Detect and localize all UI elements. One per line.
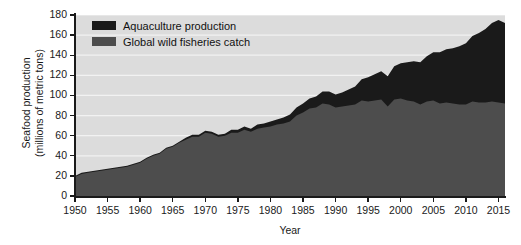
x-tick-label: 2015 [478,204,518,216]
y-axis-line [74,13,76,198]
legend-label-aquaculture: Aquaculture production [123,20,236,32]
x-tick [270,197,271,202]
x-tick [465,197,466,202]
legend-item-wild-catch: Global wild fisheries catch [92,34,250,49]
y-tick-label: 20 [27,169,67,181]
y-tick-label: 140 [27,48,67,60]
legend-swatch-aquaculture-icon [92,21,116,30]
x-tick [74,197,75,202]
legend-swatch-wild-catch-icon [92,37,116,46]
x-tick [107,197,108,202]
legend-item-aquaculture: Aquaculture production [92,18,250,33]
area-wild-catch [75,98,505,196]
x-tick [400,197,401,202]
seafood-production-chart: Seafood production (millions of metric t… [0,0,521,245]
chart-legend: Aquaculture production Global wild fishe… [92,18,250,50]
y-tick-label: 120 [27,68,67,80]
x-tick [335,197,336,202]
x-tick [139,197,140,202]
y-tick-label: 60 [27,129,67,141]
x-tick [433,197,434,202]
x-axis-title: Year [75,224,505,236]
y-tick-label: 0 [27,189,67,201]
y-tick-label: 180 [27,8,67,20]
x-tick [302,197,303,202]
x-tick [237,197,238,202]
y-tick-label: 160 [27,28,67,40]
x-tick [205,197,206,202]
x-tick [172,197,173,202]
y-tick-label: 100 [27,88,67,100]
y-tick-label: 40 [27,149,67,161]
x-tick [498,197,499,202]
x-tick [367,197,368,202]
legend-label-wild-catch: Global wild fisheries catch [123,36,250,48]
y-tick-label: 80 [27,109,67,121]
